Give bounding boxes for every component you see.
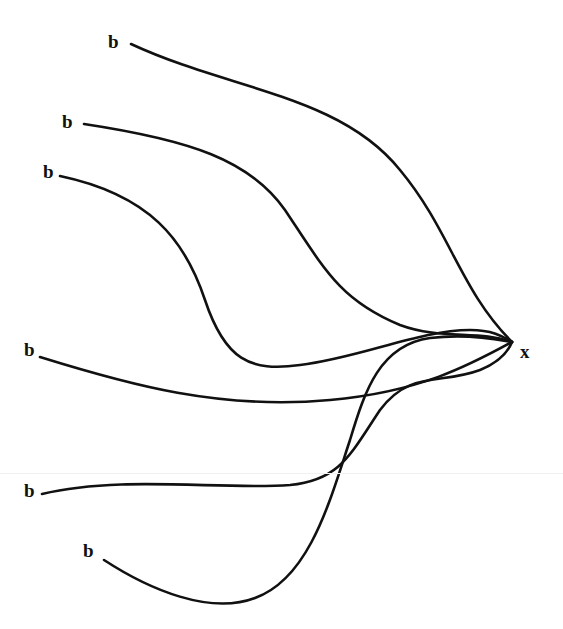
edge-b4-to-x	[40, 342, 512, 402]
scan-artifact-line	[0, 473, 563, 474]
source-node-label-4: b	[24, 340, 35, 359]
edge-b3-to-x	[60, 176, 512, 367]
target-node-label: x	[520, 342, 530, 361]
source-node-label-5: b	[24, 481, 35, 500]
source-node-label-1: b	[108, 32, 119, 51]
source-node-label-3: b	[43, 162, 54, 181]
curve-diagram	[0, 0, 563, 629]
source-node-label-6: b	[83, 541, 94, 560]
source-node-label-2: b	[62, 112, 73, 131]
edge-b2-to-x	[84, 124, 512, 342]
edge-b5-to-x	[42, 342, 512, 494]
edge-b1-to-x	[131, 44, 512, 342]
